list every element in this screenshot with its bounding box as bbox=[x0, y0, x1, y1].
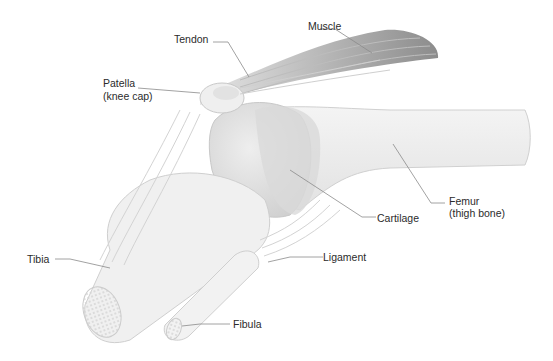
label-tendon: Tendon bbox=[174, 33, 208, 45]
knee-illustration bbox=[0, 0, 553, 361]
knee-anatomy-diagram: Muscle Tendon Patella (knee cap) Femur (… bbox=[0, 0, 553, 361]
label-tibia: Tibia bbox=[27, 253, 49, 265]
label-ligament: Ligament bbox=[323, 251, 366, 263]
label-fibula: Fibula bbox=[233, 318, 262, 330]
label-cartilage: Cartilage bbox=[377, 212, 419, 224]
label-patella: Patella bbox=[103, 77, 135, 89]
label-femur-sub: (thigh bone) bbox=[449, 207, 505, 219]
label-femur: Femur bbox=[449, 195, 479, 207]
label-patella-sub: (knee cap) bbox=[103, 90, 153, 102]
patella bbox=[200, 83, 244, 113]
label-muscle: Muscle bbox=[308, 20, 341, 32]
